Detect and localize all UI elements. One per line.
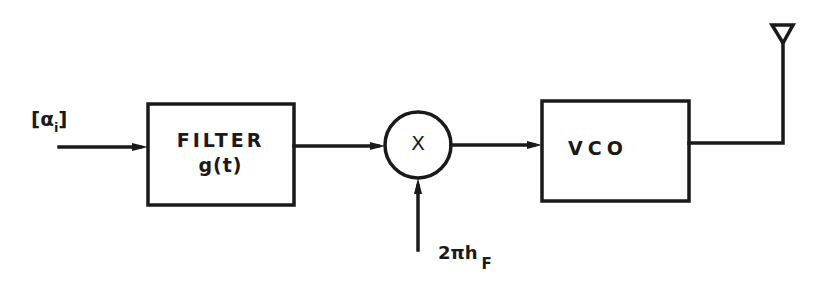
modulation-index-label: 2πhF: [438, 242, 492, 273]
fm-transmitter-block-diagram: [αi] FILTER g(t) X VCO 2πhF: [0, 0, 833, 290]
vco-to-antenna-line: [689, 44, 783, 143]
arrowhead-into-multiplier: [370, 142, 385, 150]
multiplier-symbol: X: [400, 131, 436, 155]
filter-title: FILTER: [147, 129, 294, 151]
arrowhead-control-into-multiplier: [414, 178, 422, 194]
antenna-icon: [772, 25, 793, 43]
filter-impulse-response: g(t): [147, 154, 294, 176]
arrowhead-into-vco: [527, 141, 542, 149]
arrowhead-into-filter: [132, 143, 148, 151]
vco-title: VCO: [568, 137, 628, 159]
input-symbols-label: [αi]: [31, 107, 68, 135]
